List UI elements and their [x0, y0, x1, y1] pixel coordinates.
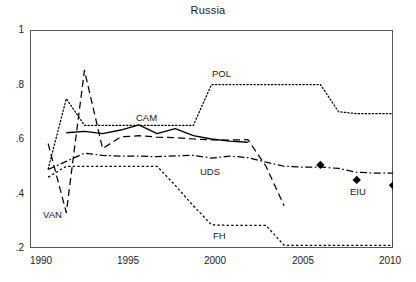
x-tick-label-1995: 1995 — [108, 255, 148, 266]
data-point-marker — [389, 181, 393, 189]
y-tick-label-02: .2 — [2, 242, 24, 253]
series-line — [48, 153, 393, 173]
y-tick-label-06: .6 — [2, 133, 24, 144]
series-line — [48, 85, 393, 169]
series-eiu — [316, 161, 393, 190]
chart-figure: Russia 1 .8 .6 .4 .2 1990 1995 2000 2005… — [0, 0, 416, 282]
y-tick-label-1: 1 — [2, 24, 24, 35]
plot-area — [30, 30, 393, 248]
chart-title: Russia — [0, 4, 416, 16]
x-tick-label-2010: 2010 — [370, 255, 410, 266]
series-van — [48, 70, 284, 212]
y-tick-label-04: .4 — [2, 188, 24, 199]
chart-canvas — [30, 30, 393, 248]
series-pol — [48, 85, 393, 169]
y-tick-label-08: .8 — [2, 79, 24, 90]
x-tick-label-2000: 2000 — [195, 255, 235, 266]
x-tick-label-2005: 2005 — [283, 255, 323, 266]
series-uds — [48, 153, 393, 173]
series-line — [48, 70, 284, 212]
series-line — [66, 125, 248, 142]
series-line — [48, 166, 393, 245]
x-tick-label-1990: 1990 — [21, 255, 61, 266]
series-cam — [66, 125, 248, 142]
series-layer — [48, 70, 393, 245]
data-point-marker — [353, 176, 361, 184]
series-fh — [48, 166, 393, 245]
